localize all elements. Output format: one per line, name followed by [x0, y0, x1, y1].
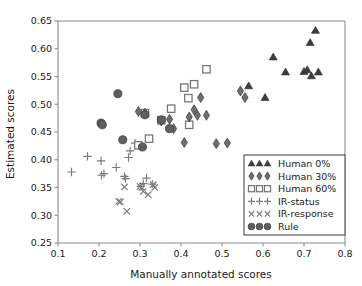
legend-label: IR-status	[278, 196, 320, 207]
data-point-cross	[121, 184, 127, 190]
data-point-plus	[112, 163, 120, 171]
x-axis-ticks: 0.10.20.30.40.50.60.70.8	[50, 243, 352, 259]
data-point-diamond	[224, 138, 230, 148]
series-human-0	[245, 26, 323, 100]
y-axis-title: Estimated scores	[4, 89, 16, 179]
x-axis-title: Manually annotated scores	[130, 268, 272, 280]
x-tick-label: 0.6	[255, 248, 270, 259]
y-axis-ticks: 0.250.300.350.400.450.500.550.600.65	[31, 15, 58, 248]
data-point-plus	[67, 168, 75, 176]
data-point-square	[190, 81, 197, 88]
legend-label: Human 0%	[278, 158, 330, 169]
legend-label: Human 30%	[278, 171, 336, 182]
y-tick-label: 0.50	[31, 99, 52, 110]
legend-marker-circle	[248, 223, 255, 230]
chart-legend: Human 0%Human 30%Human 60%IR-statusIR-re…	[244, 155, 345, 235]
x-tick-label: 0.2	[91, 248, 106, 259]
x-tick-label: 0.4	[173, 248, 188, 259]
data-point-plus	[120, 172, 128, 180]
data-point-triangle	[261, 94, 269, 101]
data-point-triangle	[311, 26, 319, 33]
data-point-plus	[83, 152, 91, 160]
y-tick-label: 0.45	[31, 126, 52, 137]
x-tick-label: 0.8	[337, 248, 352, 259]
x-tick-label: 0.1	[50, 248, 65, 259]
data-point-square	[203, 66, 210, 73]
data-point-plus	[97, 157, 105, 165]
y-tick-label: 0.60	[31, 43, 52, 54]
data-point-circle	[157, 116, 165, 124]
y-tick-label: 0.30	[31, 210, 52, 221]
y-tick-label: 0.25	[31, 237, 52, 248]
data-point-diamond	[237, 86, 243, 96]
data-point-circle	[141, 111, 149, 119]
data-point-diamond	[213, 139, 219, 149]
legend-marker-square	[256, 186, 262, 192]
data-point-diamond	[181, 138, 187, 148]
data-point-square	[145, 135, 152, 142]
data-point-circle	[114, 90, 122, 98]
data-point-square	[167, 105, 174, 112]
data-point-square	[185, 94, 192, 101]
x-tick-label: 0.3	[132, 248, 147, 259]
data-point-diamond	[198, 93, 204, 103]
legend-label: IR-response	[278, 208, 334, 219]
legend-marker-circle	[264, 223, 271, 230]
scatter-plot-figure: 0.10.20.30.40.50.60.70.8 0.250.300.350.4…	[0, 0, 362, 286]
x-tick-label: 0.7	[296, 248, 311, 259]
data-point-diamond	[203, 110, 209, 120]
data-point-circle	[98, 121, 106, 129]
data-point-plus	[126, 147, 134, 155]
data-point-triangle	[282, 68, 290, 75]
x-tick-label: 0.5	[214, 248, 229, 259]
data-point-triangle	[306, 39, 314, 46]
y-tick-label: 0.55	[31, 71, 52, 82]
data-point-circle	[138, 143, 146, 151]
data-point-triangle	[245, 82, 253, 89]
data-point-triangle	[269, 53, 277, 60]
data-point-square	[181, 84, 188, 91]
data-point-circle	[165, 125, 173, 133]
data-point-triangle	[314, 68, 322, 75]
data-point-plus	[121, 174, 129, 182]
data-point-diamond	[242, 93, 248, 103]
data-point-circle	[119, 136, 127, 144]
data-point-cross	[124, 208, 130, 214]
y-tick-label: 0.40	[31, 154, 52, 165]
plot-canvas: 0.10.20.30.40.50.60.70.8 0.250.300.350.4…	[0, 0, 362, 286]
legend-marker-square	[248, 186, 254, 192]
series-human-60	[135, 66, 210, 149]
y-tick-label: 0.65	[31, 15, 52, 26]
legend-marker-circle	[256, 223, 263, 230]
legend-label: Human 60%	[278, 183, 336, 194]
y-tick-label: 0.35	[31, 182, 52, 193]
legend-label: Rule	[278, 221, 299, 232]
legend-marker-square	[264, 186, 270, 192]
data-point-diamond	[166, 114, 172, 124]
data-point-plus	[124, 153, 132, 161]
series-human-30	[135, 86, 254, 174]
